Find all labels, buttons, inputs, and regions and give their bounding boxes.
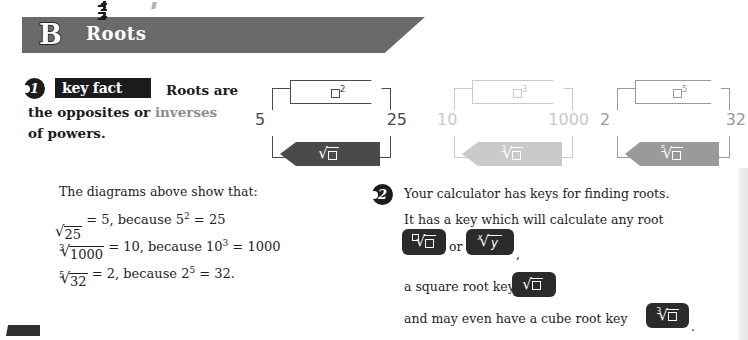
period-punctuation: .: [691, 319, 695, 334]
page-right-shadow: [739, 168, 748, 340]
equation-radicand: 32: [69, 273, 88, 288]
diagram-root-operation: 5√: [625, 142, 719, 166]
radical-glyph: 5√: [661, 147, 684, 161]
page-title: Roots: [86, 24, 146, 44]
flow-diagram-fifth: 23255√: [600, 80, 746, 166]
equation-3: 5√32 = 2, because 25 = 32.: [59, 262, 235, 288]
diagram-root-operation: 3√: [462, 142, 562, 166]
list-marker-2: 2: [372, 184, 393, 205]
key-fact-torn-edge: [96, 0, 106, 20]
equation-text-after-power: = 32.: [195, 266, 235, 281]
placeholder-box-icon: [331, 89, 340, 98]
radical-radicand: [671, 147, 683, 160]
or-label: or: [449, 239, 463, 254]
diagram-input-value: 10: [437, 111, 457, 129]
key-fact-line-3: of powers.: [28, 125, 106, 141]
diagram-connector: [272, 88, 273, 110]
intro-text: The diagrams above show that:: [59, 184, 258, 199]
equation-text-after-power: = 1000: [228, 239, 280, 254]
placeholder-box-icon: [532, 281, 541, 290]
radical-radicand: y: [488, 235, 502, 249]
comma-punctuation: ,: [516, 246, 520, 261]
section-letter: B: [39, 21, 62, 48]
page-top-artifact: [151, 2, 156, 9]
diagram-power-operation: 3: [472, 80, 568, 104]
diagram-connector: [272, 136, 273, 158]
list-marker-1-label: 1: [30, 81, 39, 96]
radical-radicand: [327, 147, 339, 160]
diagram-connector: [572, 88, 573, 110]
diagram-connector: [454, 88, 455, 110]
diagram-power-operation: 5: [635, 80, 725, 104]
placeholder-box-icon: [512, 151, 521, 160]
list-marker-2-label: 2: [378, 187, 387, 202]
key-fact-inverses-word: inverses: [155, 104, 217, 120]
diagram-connector: [390, 136, 391, 158]
flow-diagram-cube: 10100033√: [437, 80, 589, 166]
calculator-line-4: and may even have a cube root key: [404, 311, 628, 326]
placeholder-box-icon: [668, 312, 677, 321]
diagram-connector: [617, 88, 618, 110]
diagram-connector: [729, 136, 730, 158]
diagram-connector: [390, 88, 391, 110]
diagram-output-value: 25: [387, 111, 407, 129]
list-marker-1: 1: [24, 78, 45, 99]
diagram-root-operation: √: [280, 142, 380, 166]
power-exponent: 5: [682, 84, 688, 94]
radical-radicand: [424, 235, 436, 248]
equation-text-before-power: = 5, because 5: [82, 212, 184, 227]
x-root-y-key-icon[interactable]: x√y: [466, 229, 514, 255]
cube-root-key-icon[interactable]: 3√: [646, 303, 689, 328]
diagram-connector: [729, 88, 730, 110]
flow-diagram-square: 5252√: [255, 80, 407, 166]
diagram-connector: [454, 136, 455, 158]
equation-radical: 5√32: [59, 273, 88, 288]
diagram-connector: [617, 136, 618, 158]
radical-glyph: √: [321, 147, 339, 161]
equation-radical: 3√1000: [59, 246, 104, 261]
equation-text-after-power: = 25: [190, 212, 226, 227]
radical-glyph: √: [525, 278, 543, 292]
section-banner: [22, 17, 425, 53]
radical-radicand: [531, 278, 543, 291]
radical-radicand: [511, 147, 523, 160]
equation-radicand: 1000: [69, 246, 104, 261]
radical-glyph: x√y: [478, 235, 502, 249]
calculator-line-3: a square root key: [404, 279, 515, 294]
radical-radicand: [667, 309, 679, 322]
equation-text-before-power: = 2, because 2: [88, 266, 190, 281]
calculator-line-1: Your calculator has keys for finding roo…: [404, 186, 669, 201]
diagram-output-value: 1000: [548, 111, 589, 129]
textbook-page: B Roots 1 key fact Roots are the opposit…: [0, 0, 748, 340]
equation-text-before-power: = 10, because 10: [104, 239, 222, 254]
placeholder-box-icon: [328, 151, 337, 160]
key-fact-line-2a: the opposites or: [28, 104, 155, 120]
equation-2: 3√1000 = 10, because 103 = 1000: [59, 235, 280, 261]
diagram-output-value: 32: [726, 111, 746, 129]
placeholder-box-icon: [673, 89, 682, 98]
radical-glyph: 3√: [501, 147, 524, 161]
key-fact-badge: key fact: [55, 78, 151, 98]
placeholder-box-icon: [425, 239, 434, 248]
diagram-connector: [572, 136, 573, 158]
power-expression: 5: [673, 84, 688, 100]
diagram-input-value: 2: [600, 111, 610, 129]
placeholder-box-icon: [672, 151, 681, 160]
placeholder-box-icon: [513, 89, 522, 98]
radical-glyph: √: [412, 235, 437, 249]
any-root-key-icon[interactable]: √: [402, 229, 446, 255]
diagram-power-operation: 2: [290, 80, 386, 104]
power-exponent: 2: [340, 84, 346, 94]
diagram-input-value: 5: [255, 111, 265, 129]
key-fact-line-2: the opposites or inverses: [28, 104, 217, 120]
power-expression: 2: [331, 84, 346, 100]
power-expression: 3: [513, 84, 528, 100]
key-fact-line-1: Roots are: [166, 82, 238, 98]
power-exponent: 3: [522, 84, 528, 94]
key-fact-badge-label: key fact: [62, 80, 122, 96]
next-section-banner-edge: [6, 325, 40, 336]
square-root-key-icon[interactable]: √: [512, 272, 556, 297]
radical-glyph: 3√: [656, 309, 679, 323]
calculator-line-2: It has a key which will calculate any ro…: [404, 212, 664, 227]
